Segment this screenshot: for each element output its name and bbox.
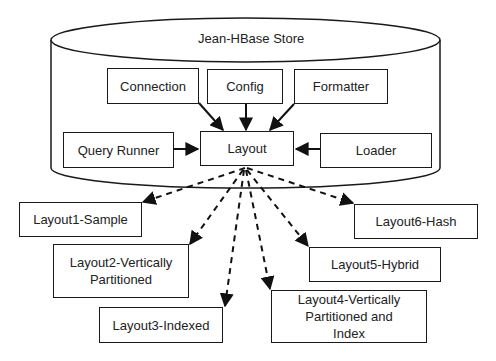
layout5-box: Layout5-Hybrid [309, 247, 441, 282]
layout1-box: Layout1-Sample [19, 202, 142, 237]
layout2-box: Layout2-Vertically Partitioned [53, 244, 189, 298]
query-runner-box: Query Runner [63, 132, 174, 168]
loader-box: Loader [320, 133, 432, 168]
layout4-box: Layout4-Vertically Partitioned and Index [271, 290, 427, 343]
connection-box: Connection [107, 68, 199, 104]
formatter-box: Formatter [294, 69, 388, 104]
layout3-box: Layout3-Indexed [99, 307, 223, 343]
layout-box: Layout [200, 131, 294, 166]
store-label: Jean-HBase Store [198, 31, 304, 46]
config-box: Config [207, 69, 283, 104]
layout6-box: Layout6-Hash [354, 204, 478, 239]
